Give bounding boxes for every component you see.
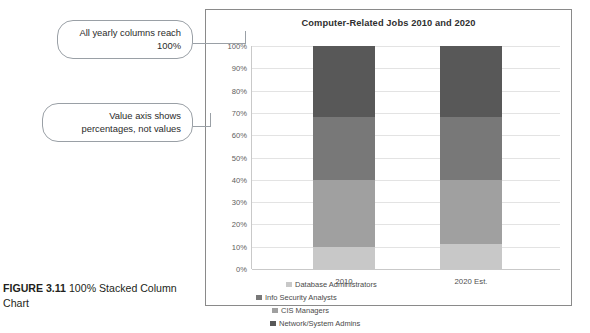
y-axis-label-60: 60% [232,131,247,140]
y-axis-label-70: 70% [232,108,247,117]
y-axis-label-0: 0% [236,265,247,274]
legend-swatch-icon [272,308,278,314]
chart-title: Computer-Related Jobs 2010 and 2020 [206,18,571,28]
gridline-30 [252,202,560,203]
chart-container: Computer-Related Jobs 2010 and 2020 100%… [205,9,572,306]
gridline-90 [252,68,560,69]
chart-legend: Database AdministratorsInfo Security Ana… [252,280,560,332]
y-axis-label-50: 50% [232,153,247,162]
stacked-bar-2010[interactable]: 2010 [313,46,375,269]
gridline-100 [252,46,560,47]
gridline-60 [252,135,560,136]
gridline-40 [252,180,560,181]
y-axis-label-10: 10% [232,242,247,251]
figure-caption: FIGURE 3.11 100% Stacked Column Chart [3,281,193,311]
bar-segment-info-security-analysts[interactable] [313,117,375,179]
legend-item-network-system-admins[interactable]: Network/System Admins [252,319,424,328]
gridline-20 [252,224,560,225]
legend-label: Info Security Analysts [265,293,337,302]
gridline-10 [252,247,560,248]
y-axis-label-30: 30% [232,198,247,207]
legend-item-database-administrators[interactable]: Database Administrators [252,280,440,289]
plot-area: 100%90%80%70%60%50%40%30%20%10%0% 201020… [252,46,560,269]
callout-2-leader [193,126,211,127]
bar-segment-network-system-admins[interactable] [440,46,502,117]
bar-segment-database-administrators[interactable] [313,247,375,269]
legend-item-cis-managers[interactable]: CIS Managers [252,306,426,315]
bar-segment-network-system-admins[interactable] [313,46,375,117]
bar-segment-info-security-analysts[interactable] [440,117,502,179]
legend-label: CIS Managers [281,306,329,315]
legend-swatch-icon [256,295,262,301]
gridline-70 [252,113,560,114]
legend-item-info-security-analysts[interactable]: Info Security Analysts [252,293,410,302]
y-axis-label-20: 20% [232,220,247,229]
bar-segment-database-administrators[interactable] [440,244,502,269]
stacked-bar-2020-est[interactable]: 2020 Est. [440,46,502,269]
callout-all-columns-reach-100: All yearly columns reach 100% [57,20,193,59]
legend-label: Database Administrators [295,280,377,289]
callout-2-leader-drop [210,113,211,127]
gridline-0 [252,269,560,270]
legend-swatch-icon [286,282,292,288]
gridline-80 [252,91,560,92]
bar-segment-cis-managers[interactable] [313,180,375,247]
figure-number: FIGURE 3.11 [3,282,66,294]
bar-segment-cis-managers[interactable] [440,180,502,245]
callout-value-axis-percentages: Value axis shows percentages, not values [42,103,193,142]
y-axis-label-40: 40% [232,175,247,184]
legend-swatch-icon [270,321,276,327]
y-axis-label-90: 90% [232,64,247,73]
callout-1-leader-drop [245,31,246,44]
callout-1-leader [193,43,246,44]
y-axis-label-80: 80% [232,86,247,95]
legend-label: Network/System Admins [279,319,360,328]
gridline-50 [252,158,560,159]
